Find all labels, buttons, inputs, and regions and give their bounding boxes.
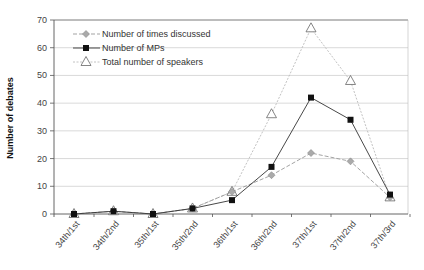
y-tick-label: 0 [42,209,47,219]
y-axis-ticks: 010203040506070 [37,15,54,219]
y-tick-label: 30 [37,126,47,136]
y-tick-label: 70 [37,15,47,25]
y-tick-label: 50 [37,70,47,80]
legend-label: Number of MPs [102,43,165,53]
legend-item: Number of times discussed [73,29,211,39]
legend-item: Total number of speakers [73,57,204,68]
legend-item: Number of MPs [73,43,165,53]
x-tick-label: 35th/1st [132,218,161,249]
legend-label: Number of times discussed [102,29,211,39]
x-tick-label: 34th/2nd [91,219,121,252]
y-tick-label: 20 [37,154,47,164]
series-diamond [71,150,394,218]
y-tick-label: 40 [37,98,47,108]
x-tick-label: 34th/1st [53,218,82,249]
y-tick-label: 10 [37,181,47,191]
x-tick-label: 36th/1st [211,218,240,249]
series-square [71,95,393,217]
x-tick-label: 37th/1st [290,218,319,249]
x-tick-label: 36th/2nd [249,219,279,252]
y-axis-label: Number of debates [5,77,15,159]
legend-label: Total number of speakers [102,57,204,67]
x-tick-label: 37th/3rd [369,219,398,251]
line-chart: 010203040506070 34th/1st34th/2nd35th/1st… [0,0,424,270]
x-tick-label: 35th/2nd [170,219,200,252]
x-axis-ticks: 34th/1st34th/2nd35th/1st35th/2nd36th/1st… [53,214,410,252]
y-tick-label: 60 [37,43,47,53]
x-tick-label: 37th/2nd [328,219,358,252]
